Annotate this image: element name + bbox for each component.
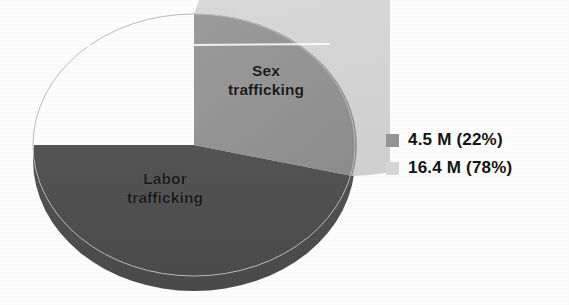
pie-slice-label-labor-trafficking: Labor trafficking (92, 170, 238, 208)
legend-item-sex-trafficking[interactable]: 4.5 M (22%) (386, 126, 566, 154)
legend-label-labor-trafficking: 16.4 M (78%) (408, 158, 512, 178)
pie-chart-graphic: Sex trafficking Labor trafficking (0, 0, 390, 305)
pie-slice-label-sex-trafficking: Sex trafficking (198, 62, 334, 100)
chart-legend: 4.5 M (22%) 16.4 M (78%) (386, 126, 566, 182)
legend-swatch-labor-trafficking (386, 162, 399, 175)
legend-label-sex-trafficking: 4.5 M (22%) (408, 130, 503, 150)
pie-chart-figure: Sex trafficking Labor trafficking 4.5 M … (0, 0, 569, 305)
legend-item-labor-trafficking[interactable]: 16.4 M (78%) (386, 154, 566, 182)
legend-swatch-sex-trafficking (386, 134, 399, 147)
pie-svg (0, 0, 390, 305)
